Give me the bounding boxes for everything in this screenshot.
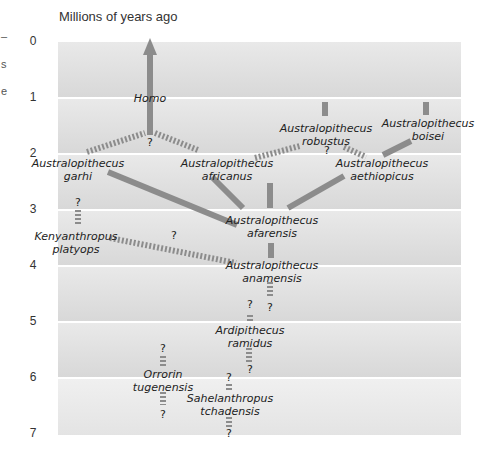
taxon-kenyanthropus-platyops: Kenyanthropusplatyops xyxy=(34,230,117,256)
taxon-sahelanthropus-tchadensis: Sahelanthropustchadensis xyxy=(187,392,273,418)
taxon-australopithecus-afarensis: Australopithecusafarensis xyxy=(226,214,318,240)
uncertainty-mark: ? xyxy=(324,144,330,157)
taxon-ardipithecus-ramidus: Ardipithecusramidus xyxy=(216,324,285,350)
taxon-australopithecus-garhi: Australopithecusgarhi xyxy=(32,157,124,183)
uncertainty-mark: ? xyxy=(160,342,166,355)
uncertainty-mark: ? xyxy=(171,229,177,242)
taxon-australopithecus-africanus: Australopithecusafricanus xyxy=(181,157,273,183)
taxon-homo: Homo xyxy=(134,92,166,105)
uncertainty-mark: ? xyxy=(247,298,253,311)
taxon-australopithecus-anamensis: Australopithecusanamensis xyxy=(226,259,318,285)
uncertainty-mark: ? xyxy=(267,301,273,314)
uncertainty-mark: ? xyxy=(247,363,253,376)
uncertainty-mark: ? xyxy=(147,136,153,149)
uncertainty-mark: ? xyxy=(160,408,166,421)
taxon-australopithecus-boisei: Australopithecusboisei xyxy=(382,117,474,143)
uncertainty-mark: ? xyxy=(75,196,81,209)
uncertainty-mark: ? xyxy=(226,371,232,384)
taxon-orrorin-tugenensis: Orrorintugenensis xyxy=(133,368,193,394)
taxon-australopithecus-aethiopicus: Australopithecusaethiopicus xyxy=(336,157,428,183)
uncertainty-mark: ? xyxy=(226,427,232,440)
